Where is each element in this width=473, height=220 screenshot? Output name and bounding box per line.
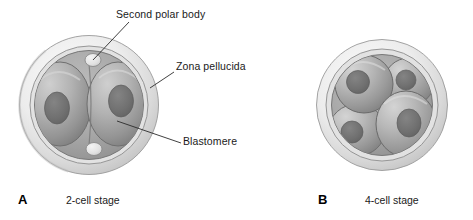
panel-letter-b: B: [318, 192, 327, 207]
polar-body-fragment-a: [86, 143, 102, 156]
nucleus-a-right: [109, 85, 134, 117]
figure-root: Second polar body Zona pellucida Blastom…: [0, 0, 473, 220]
panel-letter-a: A: [18, 192, 27, 207]
nucleus-b-lower-right: [397, 109, 421, 137]
nucleus-a-left: [45, 92, 70, 124]
nucleus-b-upper-left: [347, 71, 370, 94]
label-second-polar-body: Second polar body: [116, 8, 205, 20]
embryo-diagram: [0, 0, 473, 220]
embryo-b-4cell: [317, 40, 448, 171]
nucleus-b-upper-right: [396, 70, 416, 90]
embryo-a-2cell: [20, 36, 159, 176]
label-zona-pellucida: Zona pellucida: [176, 60, 246, 72]
panel-caption-a: 2-cell stage: [66, 194, 120, 206]
panel-caption-b: 4-cell stage: [365, 194, 419, 206]
label-blastomere: Blastomere: [183, 135, 237, 147]
